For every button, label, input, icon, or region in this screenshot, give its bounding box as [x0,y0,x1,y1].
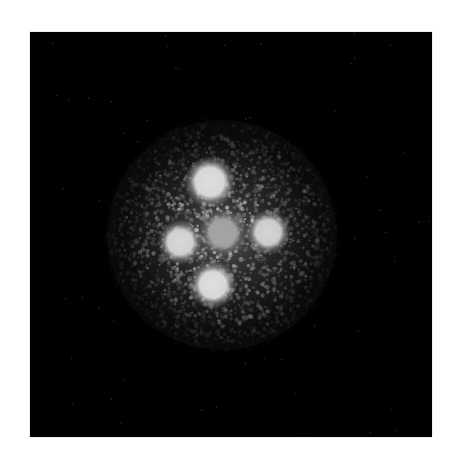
astronomical-image: Black-background astronomical image show… [30,32,432,437]
left-source [157,219,203,265]
top-source [183,155,236,208]
right-source [245,209,291,255]
